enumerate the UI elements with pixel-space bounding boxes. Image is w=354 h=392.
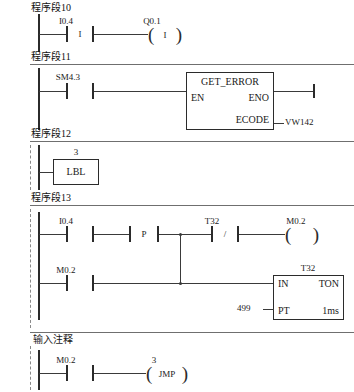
ecode-operand-vw142: VW142 — [285, 117, 314, 128]
power-rail-last — [38, 350, 40, 390]
get-error-box-title: GET_ERROR — [187, 76, 273, 88]
coil-paren-right: ) — [313, 225, 319, 245]
wire-net10-b — [94, 34, 148, 35]
pin-ecode: ECODE — [236, 114, 269, 126]
wire-net13-f — [94, 283, 273, 284]
contact-bar-left — [66, 275, 68, 291]
wire-net12-a — [39, 172, 53, 173]
coil-paren-right: ) — [182, 364, 188, 384]
wire-net11-ecode — [274, 123, 284, 124]
wire-net10-a — [39, 34, 66, 35]
network-separator-last — [30, 332, 354, 333]
network-title-13: 程序段13 — [31, 192, 71, 204]
lbl-number-net12: 3 — [53, 147, 99, 158]
contact-m02-net13[interactable] — [66, 275, 94, 291]
pin-en: EN — [191, 92, 204, 104]
wire-last-a — [39, 373, 66, 374]
get-error-box[interactable]: GET_ERROR EN ENO ECODE — [186, 72, 274, 130]
network-separator-13 — [30, 205, 354, 206]
branch-node-bottom — [179, 282, 182, 285]
wire-net13-e — [39, 283, 66, 284]
wire-net11-b — [94, 91, 186, 92]
power-rail-net12 — [38, 145, 40, 190]
eno-terminal-tick — [313, 84, 315, 98]
wire-net13-b — [94, 234, 129, 235]
coil-paren-left: ( — [285, 225, 291, 245]
timer-box-ton[interactable]: IN TON PT 1ms — [273, 275, 344, 320]
branch-node-top — [179, 233, 182, 236]
lbl-box[interactable]: LBL — [53, 159, 99, 185]
edge-symbol: P — [129, 228, 159, 240]
pin-ton-type: TON — [319, 278, 339, 290]
contact-label-sm43-net11: SM4.3 — [40, 72, 96, 83]
network-comment-input: 输入注释 — [33, 334, 73, 346]
network-title-11: 程序段11 — [31, 51, 71, 63]
coil-jmp[interactable]: ( JMP ) — [146, 364, 188, 384]
network-scope-marker-12 — [30, 145, 31, 190]
wire-net13-a — [39, 234, 66, 235]
coil-q01-net10[interactable]: ( I ) — [148, 25, 182, 45]
contact-i04-net13[interactable] — [66, 226, 94, 242]
ladder-diagram-canvas: 程序段10 I0.4 I Q0.1 ( I ) 程序段11 SM4.3 GET_… — [0, 0, 354, 392]
wire-net13-d — [239, 234, 285, 235]
network-scope-marker-13 — [30, 209, 31, 328]
contact-sm43-net11[interactable] — [66, 83, 94, 99]
network-title-10: 程序段10 — [31, 2, 71, 14]
pin-eno: ENO — [248, 92, 269, 104]
timer-timebase: 1ms — [322, 305, 339, 317]
network-scope-marker-last — [30, 346, 31, 390]
timer-label-t32: T32 — [288, 263, 328, 274]
wire-net11-a — [39, 91, 66, 92]
network-separator-12 — [30, 141, 354, 142]
contact-bar-left — [66, 226, 68, 242]
coil-m02-net13[interactable]: ( ) — [285, 225, 319, 245]
contact-t32-normally-closed[interactable]: / — [211, 226, 239, 242]
wire-last-b — [94, 373, 146, 374]
contact-i04-net10[interactable]: I — [66, 26, 94, 42]
pin-pt: PT — [278, 305, 290, 317]
contact-symbol: / — [211, 228, 239, 240]
power-rail-net13 — [38, 212, 40, 320]
lbl-box-text: LBL — [54, 166, 98, 178]
contact-symbol: I — [66, 28, 94, 40]
pin-in: IN — [278, 278, 289, 290]
timer-preset-value: 499 — [237, 303, 251, 314]
wire-net13-pt — [263, 309, 274, 310]
network-title-12: 程序段12 — [31, 128, 71, 140]
contact-bar-left — [66, 365, 68, 381]
contact-m02-last[interactable] — [66, 365, 94, 381]
wire-net11-eno — [274, 91, 314, 92]
contact-bar-left — [66, 83, 68, 99]
power-rail-net10 — [38, 14, 40, 52]
branch-vertical-net13 — [180, 234, 181, 283]
network-separator-11 — [30, 64, 354, 65]
wire-net13-c — [159, 234, 211, 235]
coil-paren-right: ) — [176, 25, 182, 45]
contact-positive-edge-p[interactable]: P — [129, 226, 159, 242]
